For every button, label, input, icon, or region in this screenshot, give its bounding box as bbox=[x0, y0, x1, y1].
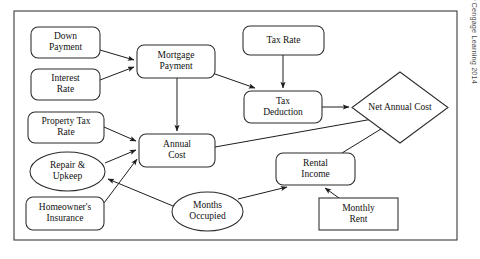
influence-diagram: DownPaymentInterestRateProperty TaxRateR… bbox=[0, 0, 480, 259]
node-monthly-rent[interactable]: MonthlyRent bbox=[319, 198, 398, 230]
edge-down-payment-to-mortgage-payment bbox=[100, 50, 134, 60]
node-label-rental-income: Rental bbox=[303, 158, 328, 168]
node-interest-rate[interactable]: InterestRate bbox=[31, 69, 100, 100]
node-label-interest-rate: Interest bbox=[51, 73, 80, 83]
node-layer: DownPaymentInterestRateProperty TaxRateR… bbox=[26, 26, 448, 231]
node-label-tax-deduction: Tax bbox=[276, 96, 290, 106]
node-label-tax-deduction: Deduction bbox=[263, 107, 303, 117]
edge-homeowners-insurance-to-annual-cost bbox=[104, 159, 137, 203]
node-label-property-tax-rate: Rate bbox=[57, 127, 74, 137]
node-label-down-payment: Down bbox=[54, 31, 77, 41]
node-rental-income[interactable]: RentalIncome bbox=[276, 153, 355, 185]
node-repair-upkeep[interactable]: Repair &Upkeep bbox=[30, 152, 105, 191]
node-label-interest-rate: Rate bbox=[57, 84, 74, 94]
diagram-canvas: DownPaymentInterestRateProperty TaxRateR… bbox=[0, 0, 480, 259]
node-homeowners-insurance[interactable]: Homeowner'sInsurance bbox=[26, 197, 104, 230]
node-label-net-annual-cost: Net Annual Cost bbox=[368, 102, 432, 112]
node-label-property-tax-rate: Property Tax bbox=[41, 116, 90, 126]
node-months-occupied[interactable]: MonthsOccupied bbox=[172, 192, 243, 231]
edge-mortgage-payment-to-tax-deduction bbox=[215, 74, 255, 88]
node-label-repair-upkeep: Upkeep bbox=[53, 171, 83, 181]
edge-months-occupied-to-repair-upkeep bbox=[108, 179, 173, 206]
node-label-rental-income: Income bbox=[301, 169, 330, 179]
node-annual-cost[interactable]: AnnualCost bbox=[139, 134, 215, 167]
node-down-payment[interactable]: DownPayment bbox=[31, 27, 100, 58]
node-label-homeowners-insurance: Insurance bbox=[47, 213, 84, 223]
node-mortgage-payment[interactable]: MortgagePayment bbox=[137, 45, 215, 78]
node-label-homeowners-insurance: Homeowner's bbox=[39, 202, 92, 212]
edge-interest-rate-to-mortgage-payment bbox=[100, 67, 134, 80]
node-label-monthly-rent: Rent bbox=[350, 214, 368, 224]
node-label-annual-cost: Cost bbox=[168, 150, 186, 160]
edge-months-occupied-to-rental-income bbox=[238, 187, 287, 199]
node-label-repair-upkeep: Repair & bbox=[50, 160, 86, 170]
node-tax-rate[interactable]: Tax Rate bbox=[243, 26, 324, 55]
node-property-tax-rate[interactable]: Property TaxRate bbox=[28, 112, 104, 143]
node-tax-deduction[interactable]: TaxDeduction bbox=[244, 91, 322, 123]
node-label-months-occupied: Months bbox=[193, 200, 222, 210]
edge-monthly-rent-to-rental-income bbox=[325, 188, 339, 198]
node-label-annual-cost: Annual bbox=[163, 139, 191, 149]
edge-repair-upkeep-to-annual-cost bbox=[105, 150, 136, 163]
node-label-mortgage-payment: Mortgage bbox=[158, 50, 195, 60]
node-label-tax-rate: Tax Rate bbox=[267, 35, 301, 45]
node-label-mortgage-payment: Payment bbox=[159, 61, 193, 71]
node-label-down-payment: Payment bbox=[49, 42, 83, 52]
node-label-monthly-rent: Monthly bbox=[342, 203, 375, 213]
node-label-months-occupied: Occupied bbox=[189, 211, 226, 221]
edge-property-tax-rate-to-annual-cost bbox=[104, 127, 136, 141]
node-net-annual-cost[interactable]: Net Annual Cost bbox=[352, 72, 448, 143]
copyright-credit: © Cengage Learning 2014 bbox=[470, 0, 479, 84]
